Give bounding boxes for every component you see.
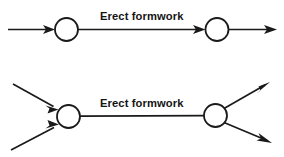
bottom-incoming-arrow-lower-line <box>11 128 54 151</box>
bottom-outgoing-arrow-lower <box>224 123 272 144</box>
top-node-start <box>55 18 78 41</box>
bottom-outgoing-arrow-upper <box>224 82 270 109</box>
bottom-outgoing-arrow-lower-line <box>224 123 267 141</box>
bottom-activity-line <box>80 116 204 117</box>
bottom-incoming-arrow-upper-line <box>13 84 54 107</box>
bottom-activity-label: Erect formwork <box>100 98 183 109</box>
top-node-end <box>206 18 229 41</box>
bottom-incoming-arrow-upper <box>13 84 59 114</box>
bottom-fragment-group <box>11 82 272 150</box>
bottom-outgoing-arrow-lower-head <box>257 133 273 143</box>
bottom-incoming-arrow-lower-head <box>46 120 60 129</box>
top-activity-arrow <box>78 25 206 34</box>
bottom-incoming-arrow-lower <box>11 120 59 150</box>
top-outgoing-arrow <box>229 25 278 34</box>
network-diagram-figure: Erect formwork Erect formwork <box>0 0 284 157</box>
bottom-incoming-arrow-upper-head <box>46 106 59 114</box>
network-diagram-canvas <box>0 0 284 157</box>
bottom-node-start <box>57 105 80 128</box>
bottom-outgoing-arrow-upper-line <box>224 85 265 109</box>
top-incoming-arrow <box>8 25 55 34</box>
top-activity-label: Erect formwork <box>100 11 183 22</box>
bottom-node-end <box>204 104 227 127</box>
